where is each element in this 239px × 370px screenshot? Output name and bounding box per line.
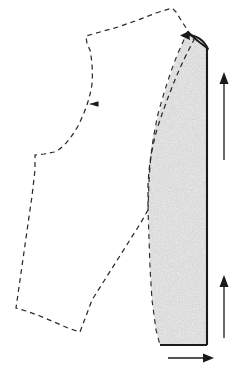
balance-notch [91, 102, 98, 106]
grain-arrow-lower [220, 275, 229, 338]
hem-arrow-bottom [168, 354, 214, 363]
grain-arrow-upper [220, 72, 229, 160]
pattern-figure [0, 0, 239, 370]
pattern-diagram-canvas [0, 0, 239, 370]
